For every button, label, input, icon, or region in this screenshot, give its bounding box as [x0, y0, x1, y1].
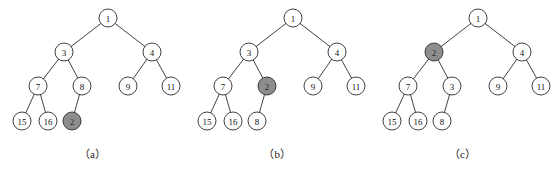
- node-circle-icon: [489, 77, 507, 95]
- tree-node[interactable]: 8: [248, 112, 266, 130]
- edge-group: [26, 24, 167, 113]
- tree-node[interactable]: 9: [489, 77, 507, 95]
- node-circle-icon: [63, 112, 81, 130]
- node-circle-icon: [443, 77, 461, 95]
- tree-edge-n3-n2: [253, 60, 263, 78]
- tree-node[interactable]: 1: [469, 9, 487, 27]
- tree-node-highlighted[interactable]: 2: [425, 43, 443, 61]
- tree-edge-n2-n8: [259, 95, 264, 113]
- tree-edge-n7-n15: [396, 94, 405, 113]
- tree-edge-n7-n15: [26, 94, 35, 113]
- tree-node[interactable]: 3: [55, 43, 73, 61]
- edge-group: [396, 24, 537, 113]
- tree-node[interactable]: 3: [443, 77, 461, 95]
- tree-node[interactable]: 4: [143, 43, 161, 61]
- edge-group: [211, 24, 352, 113]
- node-circle-icon: [513, 43, 531, 61]
- node-circle-icon: [198, 112, 216, 130]
- tree-node-highlighted[interactable]: 2: [63, 112, 81, 130]
- tree-edge-n4-n9: [503, 59, 517, 78]
- node-circle-icon: [119, 77, 137, 95]
- node-circle-icon: [383, 112, 401, 130]
- tree-edge-n4-n11: [156, 60, 166, 78]
- node-circle-icon: [399, 77, 417, 95]
- node-circle-icon: [99, 9, 117, 27]
- tree-edge-n2-n7: [413, 59, 428, 79]
- node-circle-icon: [347, 77, 365, 95]
- tree-edge-n1-n4: [300, 24, 330, 47]
- tree-edge-n4-n9: [318, 59, 332, 78]
- node-circle-icon: [39, 112, 57, 130]
- node-circle-icon: [73, 77, 91, 95]
- panel-caption-c: （c）: [370, 147, 555, 161]
- node-circle-icon: [425, 43, 443, 61]
- tree-node[interactable]: 8: [433, 112, 451, 130]
- node-circle-icon: [433, 112, 451, 130]
- tree-panel-a: 1347891115162（a）: [0, 0, 185, 171]
- tree-edge-n3-n7: [43, 59, 58, 79]
- node-circle-icon: [284, 9, 302, 27]
- tree-node[interactable]: 4: [513, 43, 531, 61]
- node-circle-icon: [304, 77, 322, 95]
- tree-panel-c: 1247391115168（c）: [370, 0, 555, 171]
- tree-node[interactable]: 16: [39, 112, 57, 130]
- tree-edge-n7-n16: [410, 95, 415, 113]
- tree-edge-n1-n3: [256, 24, 286, 47]
- node-circle-icon: [224, 112, 242, 130]
- tree-node[interactable]: 3: [240, 43, 258, 61]
- node-circle-icon: [13, 112, 31, 130]
- tree-edge-n7-n16: [225, 95, 230, 113]
- tree-node[interactable]: 11: [532, 77, 550, 95]
- tree-node[interactable]: 9: [119, 77, 137, 95]
- tree-node[interactable]: 11: [162, 77, 180, 95]
- tree-node-highlighted[interactable]: 2: [258, 77, 276, 95]
- node-circle-icon: [328, 43, 346, 61]
- tree-edge-n2-n3: [438, 60, 448, 78]
- node-circle-icon: [214, 77, 232, 95]
- tree-edge-n4-n9: [133, 59, 147, 78]
- tree-node[interactable]: 16: [224, 112, 242, 130]
- tree-node[interactable]: 16: [409, 112, 427, 130]
- tree-edge-n3-n8: [68, 60, 78, 78]
- tree-diagram-c: 1247391115168: [370, 0, 555, 145]
- node-circle-icon: [258, 77, 276, 95]
- tree-diagram-b: 1347291115168: [185, 0, 370, 145]
- tree-node[interactable]: 1: [99, 9, 117, 27]
- tree-node[interactable]: 7: [29, 77, 47, 95]
- node-circle-icon: [55, 43, 73, 61]
- tree-node[interactable]: 15: [13, 112, 31, 130]
- node-circle-icon: [248, 112, 266, 130]
- tree-node[interactable]: 4: [328, 43, 346, 61]
- tree-panel-b: 1347291115168（b）: [185, 0, 370, 171]
- tree-edge-n1-n2: [441, 24, 471, 47]
- node-circle-icon: [143, 43, 161, 61]
- node-circle-icon: [240, 43, 258, 61]
- tree-edge-n7-n16: [40, 95, 45, 113]
- tree-edge-n1-n4: [115, 24, 145, 47]
- tree-node[interactable]: 15: [383, 112, 401, 130]
- tree-edge-n7-n15: [211, 94, 220, 113]
- node-circle-icon: [532, 77, 550, 95]
- node-circle-icon: [409, 112, 427, 130]
- tree-node[interactable]: 9: [304, 77, 322, 95]
- tree-node[interactable]: 8: [73, 77, 91, 95]
- tree-node[interactable]: 15: [198, 112, 216, 130]
- tree-node[interactable]: 1: [284, 9, 302, 27]
- tree-edge-n1-n3: [71, 24, 101, 47]
- node-circle-icon: [162, 77, 180, 95]
- tree-node[interactable]: 11: [347, 77, 365, 95]
- figure-root: 1347891115162（a）1347291115168（b）12473911…: [0, 0, 555, 171]
- tree-edge-n3-n7: [228, 59, 243, 79]
- tree-edge-n3-n8: [444, 95, 449, 113]
- node-circle-icon: [469, 9, 487, 27]
- tree-node[interactable]: 7: [214, 77, 232, 95]
- tree-diagram-a: 1347891115162: [0, 0, 185, 145]
- node-circle-icon: [29, 77, 47, 95]
- tree-node[interactable]: 7: [399, 77, 417, 95]
- panel-caption-b: （b）: [185, 147, 370, 161]
- tree-edge-n4-n11: [341, 60, 351, 78]
- tree-edge-n4-n11: [526, 60, 536, 78]
- panel-caption-a: （a）: [0, 147, 185, 161]
- tree-edge-n1-n4: [485, 24, 515, 47]
- tree-edge-n8-n2: [74, 95, 79, 113]
